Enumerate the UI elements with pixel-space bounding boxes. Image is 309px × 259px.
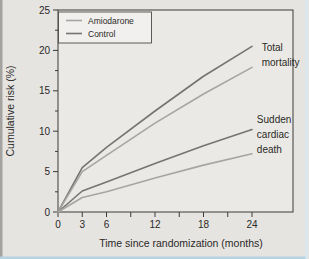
sudden-cardiac-death-label: death [257, 144, 282, 155]
x-tick-label: 0 [55, 219, 61, 230]
x-tick-label: 3 [79, 219, 85, 230]
y-tick-label: 15 [39, 85, 51, 96]
legend-label-control: Control [88, 29, 116, 39]
legend: AmiodaroneControl [59, 12, 152, 43]
y-tick-label: 20 [39, 45, 51, 56]
sudden-cardiac-death-label: cardiac [257, 129, 289, 140]
x-tick-label: 24 [246, 219, 258, 230]
x-tick-label: 12 [149, 219, 161, 230]
total-mortality-label: Total [262, 42, 283, 53]
x-axis-title: Time since randomization (months) [99, 237, 263, 249]
figure-panel: 0510152025036121824 AmiodaroneControl To… [0, 0, 308, 259]
y-tick-label: 0 [44, 207, 50, 218]
sudden-cardiac-death-label: Sudden [257, 114, 291, 125]
legend-label-amiodarone: Amiodarone [88, 16, 134, 26]
x-tick-label: 18 [198, 219, 210, 230]
total-mortality-label: mortality [262, 57, 300, 68]
cumulative-risk-chart: 0510152025036121824 AmiodaroneControl To… [0, 0, 308, 259]
y-tick-label: 10 [39, 126, 51, 137]
y-tick-label: 25 [39, 5, 51, 16]
y-axis-title: Cumulative risk (%) [4, 65, 16, 156]
y-tick-label: 5 [44, 166, 50, 177]
page-border-right [306, 0, 309, 259]
x-tick-label: 6 [104, 219, 110, 230]
page-border-left [0, 0, 3, 259]
